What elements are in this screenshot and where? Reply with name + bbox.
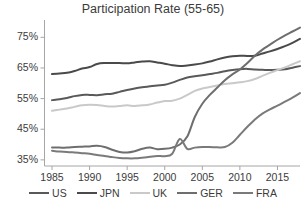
legend-swatch-ger bbox=[177, 192, 197, 194]
legend-swatch-us bbox=[29, 192, 49, 194]
x-tick-label: 2015 bbox=[259, 171, 295, 183]
legend-item-jpn[interactable]: JPN bbox=[77, 188, 120, 199]
legend-label-jpn: JPN bbox=[100, 188, 120, 199]
participation-rate-chart: Participation Rate (55-65) 35%45%55%65%7… bbox=[0, 0, 306, 212]
legend-item-fra[interactable]: FRA bbox=[233, 188, 277, 199]
x-tick-label: 1995 bbox=[109, 171, 145, 183]
series-line-us bbox=[52, 66, 300, 100]
x-tick-label: 2000 bbox=[147, 171, 183, 183]
y-tick-label: 45% bbox=[4, 122, 38, 134]
x-tick-label: 2010 bbox=[222, 171, 258, 183]
series-line-jpn bbox=[52, 39, 300, 74]
legend-item-uk[interactable]: UK bbox=[130, 188, 168, 199]
series-group bbox=[52, 28, 300, 159]
legend-label-fra: FRA bbox=[256, 188, 277, 199]
legend-label-ger: GER bbox=[200, 188, 223, 199]
legend-swatch-fra bbox=[233, 192, 253, 194]
legend-item-us[interactable]: US bbox=[29, 188, 67, 199]
legend-label-uk: UK bbox=[153, 188, 168, 199]
series-line-fra bbox=[52, 93, 300, 158]
y-tick-label: 35% bbox=[4, 153, 38, 165]
x-tick-label: 1985 bbox=[34, 171, 70, 183]
x-tick-label: 2005 bbox=[184, 171, 220, 183]
legend-swatch-uk bbox=[130, 192, 150, 194]
legend-swatch-jpn bbox=[77, 192, 97, 194]
legend-item-ger[interactable]: GER bbox=[177, 188, 223, 199]
y-tick-label: 55% bbox=[4, 92, 38, 104]
y-tick-label: 65% bbox=[4, 61, 38, 73]
series-line-uk bbox=[52, 61, 300, 111]
y-tick-label: 75% bbox=[4, 30, 38, 42]
x-tick-label: 1990 bbox=[72, 171, 108, 183]
chart-legend: USJPNUKGERFRA bbox=[0, 188, 306, 199]
legend-label-us: US bbox=[52, 188, 67, 199]
series-line-ger bbox=[52, 28, 300, 153]
